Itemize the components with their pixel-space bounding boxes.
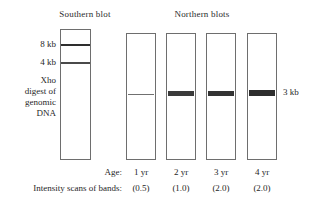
age-value-lane-4: 4 yr [247, 167, 277, 177]
marker-label-4kb: 4 kb [0, 57, 56, 67]
age-value-lane-3: 3 yr [206, 167, 236, 177]
marker-label-8kb: 8 kb [0, 39, 56, 49]
southern-band-8kb [61, 44, 90, 46]
description-line-3: genomic [0, 97, 56, 108]
marker-label-3kb: 3 kb [283, 87, 299, 97]
northern-band-2 [168, 91, 194, 96]
intensity-row-label: Intensity scans of bands: [0, 183, 122, 193]
intensity-value-lane-4: (2.0) [247, 183, 277, 193]
northern-band-3 [208, 91, 234, 96]
age-value-lane-2: 2 yr [166, 167, 196, 177]
northern-blot-lane-3 [206, 33, 236, 160]
southern-blot-lane [60, 29, 91, 160]
intensity-value-lane-1: (0.5) [126, 183, 156, 193]
northern-blot-lane-1 [126, 33, 156, 160]
northern-band-1 [128, 94, 154, 95]
southern-band-4kb [61, 62, 90, 64]
blot-figure: Southern blot Northern blots 8 kb 4 kb X… [0, 0, 314, 205]
description-line-4: DNA [0, 108, 56, 119]
northern-band-4 [249, 90, 275, 96]
description-line-1: Xho [0, 75, 56, 86]
age-row-label: Age: [0, 167, 122, 177]
intensity-value-lane-3: (2.0) [206, 183, 236, 193]
southern-blot-description: Xho digest of genomic DNA [0, 75, 56, 119]
intensity-value-lane-2: (1.0) [166, 183, 196, 193]
age-value-lane-1: 1 yr [126, 167, 156, 177]
description-line-2: digest of [0, 86, 56, 97]
northern-blots-title: Northern blots [126, 9, 278, 19]
northern-blot-lane-2 [166, 33, 196, 160]
northern-blot-lane-4 [247, 33, 277, 160]
